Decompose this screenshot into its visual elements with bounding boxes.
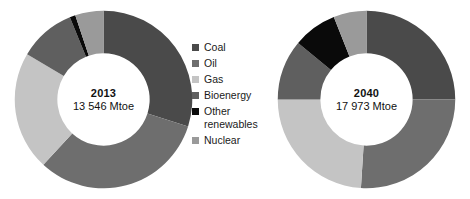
legend-swatch-nuclear bbox=[192, 137, 199, 144]
donut-slice bbox=[104, 11, 193, 127]
chart-legend: Coal Oil Gas Bioenergy Other renewables … bbox=[192, 41, 274, 150]
legend-label-coal: Coal bbox=[204, 41, 226, 54]
energy-demand-donut-figure: 2013 13 546 Mtoe Coal Oil Gas Bioenergy … bbox=[0, 0, 470, 199]
legend-label-nuclear: Nuclear bbox=[204, 134, 240, 147]
legend-swatch-gas bbox=[192, 76, 199, 83]
legend-item: Coal bbox=[192, 41, 274, 54]
legend-item: Oil bbox=[192, 57, 274, 70]
legend-swatch-oil bbox=[192, 60, 199, 67]
legend-swatch-other-renewables bbox=[192, 108, 199, 115]
legend-item: Nuclear bbox=[192, 134, 274, 147]
legend-item: Bioenergy bbox=[192, 89, 274, 102]
donut-slices-2013 bbox=[15, 11, 193, 189]
legend-swatch-bioenergy bbox=[192, 92, 199, 99]
legend-label-bioenergy: Bioenergy bbox=[204, 89, 251, 102]
legend-item: Other renewables bbox=[192, 105, 274, 131]
donut-chart-2013: 2013 13 546 Mtoe bbox=[12, 8, 195, 191]
donut-chart-2040: 2040 17 973 Mtoe bbox=[275, 8, 458, 191]
donut-slice bbox=[367, 11, 456, 100]
legend-label-gas: Gas bbox=[204, 73, 223, 86]
donut-slice bbox=[361, 100, 455, 189]
donut-svg-2013 bbox=[12, 8, 195, 191]
legend-label-other-renewables: Other renewables bbox=[204, 105, 258, 131]
donut-slice bbox=[43, 113, 188, 188]
donut-svg-2040 bbox=[275, 8, 458, 191]
legend-label-oil: Oil bbox=[204, 57, 217, 70]
legend-swatch-coal bbox=[192, 44, 199, 51]
donut-slice bbox=[278, 100, 364, 189]
donut-slices-2040 bbox=[278, 11, 456, 189]
legend-item: Gas bbox=[192, 73, 274, 86]
